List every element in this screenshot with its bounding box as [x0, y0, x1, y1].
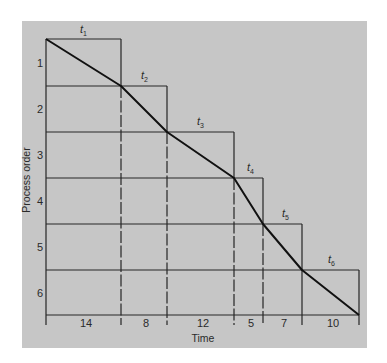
grid-lines — [46, 39, 359, 325]
process-label-1: 1 — [37, 57, 43, 69]
x-axis-title: Time — [192, 332, 215, 344]
duration-labels: 14 8 12 5 7 10 — [80, 317, 339, 329]
y-axis-title: Process order — [20, 147, 32, 213]
task-label-3: t3 — [197, 115, 204, 129]
task-labels: t1 t2 t3 t4 t5 t6 — [80, 23, 335, 267]
task-label-2: t2 — [141, 69, 148, 83]
completion-curve — [46, 39, 359, 315]
duration-1: 14 — [80, 317, 92, 329]
task-label-1: t1 — [80, 23, 87, 37]
task-label-5: t5 — [282, 207, 289, 221]
process-label-4: 4 — [37, 195, 43, 207]
duration-6: 10 — [327, 317, 339, 329]
duration-5: 7 — [281, 317, 287, 329]
process-order-ticks: 1 2 3 4 5 6 — [37, 57, 43, 299]
duration-4: 5 — [248, 317, 254, 329]
task-label-4: t4 — [247, 161, 254, 175]
duration-3: 12 — [197, 317, 209, 329]
process-schedule-diagram: 1 2 3 4 5 6 Process order t1 t2 t3 t4 t5… — [0, 0, 387, 363]
task-label-6: t6 — [328, 253, 335, 267]
process-label-2: 2 — [37, 103, 43, 115]
process-label-5: 5 — [37, 241, 43, 253]
process-label-6: 6 — [37, 287, 43, 299]
duration-2: 8 — [143, 317, 149, 329]
process-label-3: 3 — [37, 149, 43, 161]
dashed-guides — [121, 86, 263, 325]
